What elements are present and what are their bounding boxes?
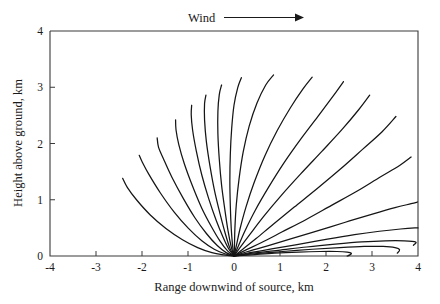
x-tick-label: 1 [277, 261, 283, 273]
wind-label: Wind [188, 11, 216, 25]
x-tick-label: -2 [137, 261, 147, 273]
x-tick-label: 3 [369, 261, 375, 273]
x-tick-label: -3 [91, 261, 101, 273]
x-tick-label: -1 [183, 261, 193, 273]
y-tick-label: 2 [37, 138, 43, 150]
x-tick-label: 0 [231, 261, 237, 273]
y-tick-label: 1 [37, 194, 43, 206]
y-axis-title: Height above ground, km [11, 79, 25, 207]
plume-trajectory-chart: Wind -4-3-2-101234 01234 Range downwind … [0, 0, 440, 304]
y-tick-label: 3 [37, 81, 43, 93]
x-tick-label: 4 [415, 261, 421, 273]
chart-background [0, 0, 440, 304]
y-tick-label: 0 [37, 250, 43, 262]
x-axis-title: Range downwind of source, km [154, 280, 314, 294]
figure-root: Wind -4-3-2-101234 01234 Range downwind … [0, 0, 440, 304]
y-tick-label: 4 [37, 25, 43, 37]
x-tick-label: -4 [45, 261, 55, 273]
x-tick-label: 2 [323, 261, 329, 273]
